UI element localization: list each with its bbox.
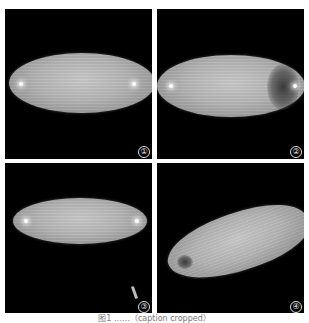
image-panel-1: ① — [5, 9, 152, 159]
light-spot — [293, 84, 297, 88]
light-spot — [135, 219, 139, 223]
image-panel-4: ④ — [157, 163, 304, 313]
image-panel-3: ③ — [5, 163, 152, 313]
light-spot — [132, 82, 136, 86]
dark-region — [177, 255, 193, 269]
image-panel-2: ② — [157, 9, 304, 159]
debris-fragment — [131, 286, 138, 299]
egg-image — [9, 53, 152, 113]
light-spot — [169, 84, 173, 88]
panel-number-badge: ① — [138, 146, 150, 158]
egg-image — [13, 198, 147, 244]
figure-caption: 图1 ……（caption cropped） — [0, 312, 309, 323]
egg-image — [159, 190, 304, 294]
light-spot — [24, 219, 28, 223]
panel-number-badge: ② — [290, 146, 302, 158]
light-spot — [19, 82, 23, 86]
